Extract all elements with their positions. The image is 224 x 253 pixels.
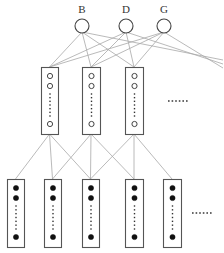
vertical-ellipsis-dot [15, 224, 16, 225]
ellipsis-dot [192, 212, 194, 214]
node-label: B [78, 3, 85, 15]
open-unit-icon [132, 73, 137, 78]
vertical-ellipsis-dot [134, 228, 135, 229]
node-circle-icon [119, 19, 133, 33]
ellipsis-dot [206, 212, 208, 214]
open-unit-icon [47, 83, 52, 88]
vertical-ellipsis-dot [134, 115, 135, 116]
edge-m1-b2 [50, 134, 53, 179]
edge-G-m3 [134, 32, 164, 67]
vertical-ellipsis-dot [134, 213, 135, 214]
bottom-box-b4 [126, 180, 144, 248]
ellipsis-dot [210, 212, 212, 214]
vertical-ellipsis-dot [52, 224, 53, 225]
bottom-box-b3 [83, 180, 100, 248]
filled-unit-icon [88, 185, 93, 190]
vertical-ellipsis-dot [15, 217, 16, 218]
edge-m2-b2 [53, 134, 92, 179]
open-unit-icon [89, 73, 94, 78]
node-circle-icon [75, 19, 89, 33]
bottom-box-b1 [8, 180, 25, 248]
open-unit-icon [132, 83, 137, 88]
vertical-ellipsis-dot [52, 213, 53, 214]
vertical-ellipsis-dot [91, 93, 92, 94]
ellipsis-dot [186, 100, 188, 102]
filled-unit-icon [13, 234, 18, 239]
ellipsis-dot [179, 100, 181, 102]
vertical-ellipsis-dot [172, 217, 173, 218]
vertical-ellipsis-dot [134, 205, 135, 206]
top-to-middle-edges [50, 32, 224, 68]
filled-unit-icon [88, 234, 93, 239]
ellipsis-dot [175, 100, 177, 102]
vertical-ellipsis-dot [134, 97, 135, 98]
ellipsis-dot [199, 212, 201, 214]
edge-m3-b5 [134, 134, 172, 179]
vertical-ellipsis-dot [134, 217, 135, 218]
vertical-ellipsis-dot [172, 209, 173, 210]
filled-unit-icon [132, 195, 137, 200]
edge-m1-b3 [50, 134, 91, 179]
vertical-ellipsis-dot [52, 205, 53, 206]
ellipsis-dot [182, 100, 184, 102]
vertical-ellipsis-dot [90, 205, 91, 206]
ellipsis-dot [168, 100, 170, 102]
vertical-ellipsis-dot [172, 205, 173, 206]
edge-D-m1 [50, 32, 127, 67]
open-unit-icon [89, 83, 94, 88]
filled-unit-icon [50, 195, 55, 200]
filled-unit-icon [170, 195, 175, 200]
ellipsis-dot [196, 212, 198, 214]
vertical-ellipsis-dot [134, 101, 135, 102]
filled-unit-icon [50, 234, 55, 239]
vertical-ellipsis-dot [15, 213, 16, 214]
vertical-ellipsis-dot [90, 213, 91, 214]
open-unit-icon [47, 73, 52, 78]
vertical-ellipsis-dot [15, 205, 16, 206]
vertical-ellipsis-dot [90, 209, 91, 210]
filled-unit-icon [13, 185, 18, 190]
vertical-ellipsis-dot [52, 221, 53, 222]
vertical-ellipsis-dot [134, 221, 135, 222]
vertical-ellipsis-dot [91, 112, 92, 113]
vertical-ellipsis-dot [49, 115, 50, 116]
vertical-ellipsis-dot [134, 93, 135, 94]
vertical-ellipsis-dot [91, 108, 92, 109]
vertical-ellipsis-dot [52, 209, 53, 210]
vertical-ellipsis-dot [49, 112, 50, 113]
vertical-ellipsis-dot [134, 224, 135, 225]
filled-unit-icon [13, 195, 18, 200]
vertical-ellipsis-dot [49, 97, 50, 98]
vertical-ellipsis-dot [15, 209, 16, 210]
vertical-ellipsis-dot [49, 108, 50, 109]
neural-network-diagram: BDG [0, 0, 223, 253]
middle-box-layer [42, 68, 144, 135]
open-unit-icon [89, 121, 94, 126]
vertical-ellipsis-dot [90, 224, 91, 225]
middle-box-m3 [126, 68, 144, 135]
vertical-ellipsis-dot [172, 224, 173, 225]
vertical-ellipsis-dot [52, 228, 53, 229]
vertical-ellipsis-dot [91, 115, 92, 116]
ellipsis-dot [203, 212, 205, 214]
vertical-ellipsis-dot [134, 209, 135, 210]
middle-box-m1 [42, 68, 59, 135]
vertical-ellipsis-dot [15, 228, 16, 229]
top-node-g: G [157, 3, 171, 33]
vertical-ellipsis-dot [15, 221, 16, 222]
middle-box-m2 [83, 68, 101, 135]
filled-unit-icon [170, 234, 175, 239]
vertical-ellipsis-dot [91, 101, 92, 102]
vertical-ellipsis-dot [134, 104, 135, 105]
top-node-d: D [119, 3, 133, 33]
vertical-ellipsis-dot [91, 97, 92, 98]
filled-unit-icon [50, 185, 55, 190]
filled-unit-icon [132, 185, 137, 190]
bottom-box-b2 [45, 180, 62, 248]
filled-unit-icon [132, 234, 137, 239]
vertical-ellipsis-dot [91, 104, 92, 105]
top-node-b: B [75, 3, 89, 33]
open-unit-icon [132, 121, 137, 126]
filled-unit-icon [88, 195, 93, 200]
node-label: G [160, 3, 168, 15]
